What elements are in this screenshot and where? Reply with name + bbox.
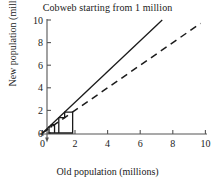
y-tick-label: 10 [33,15,43,26]
x-tick-label: 0 [40,138,45,149]
y-tick-label: 8 [38,37,43,48]
y-tick-label: 4 [38,82,43,93]
series-diagonal-y-x [43,23,201,133]
plot-area: 10 8 6 4 2 0 0 2 4 6 8 10 [0,0,215,179]
x-tick-label: 6 [138,138,143,149]
x-tick-label: 4 [105,138,110,149]
x-tick-label: 10 [200,138,210,149]
y-axis [45,19,51,143]
chart-figure: Cobweb starting from 1 million New popul… [0,0,215,179]
y-tick-labels: 10 8 6 4 2 0 [33,15,43,139]
x-tick-label: 8 [170,138,175,149]
x-tick-labels: 0 2 4 6 8 10 [40,138,210,149]
series-updating-function [43,20,163,133]
y-tick-label: 0 [38,128,43,139]
data-series-layer [43,20,201,133]
x-tick-label: 2 [73,138,78,149]
y-tick-label: 2 [38,105,43,116]
y-tick-label: 6 [38,60,43,71]
